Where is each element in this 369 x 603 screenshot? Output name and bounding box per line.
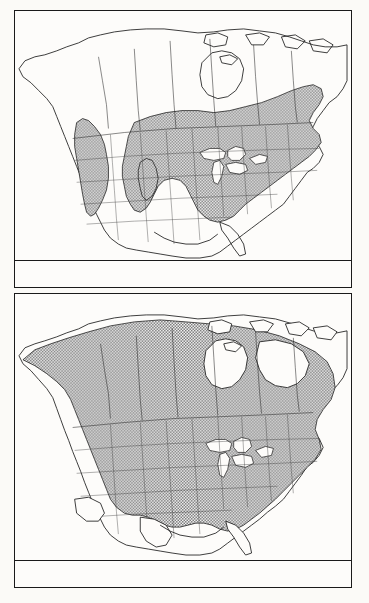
north-america-map-keen-myotis (15, 11, 351, 260)
map-area-keen-myotis (15, 11, 351, 261)
plate-page: Keen Myotis,Myotis keeni,29 (0, 0, 369, 603)
map-area-little-brown-myotis (15, 294, 351, 561)
caption-little-brown-myotis: Little Brown Myotis,Myotis lucifugus,25,… (15, 561, 351, 603)
map-panel-little-brown-myotis: Little Brown Myotis,Myotis lucifugus,25,… (14, 293, 352, 588)
north-america-map-little-brown-myotis (15, 294, 351, 560)
map-panel-keen-myotis: Keen Myotis,Myotis keeni,29 (14, 10, 352, 288)
